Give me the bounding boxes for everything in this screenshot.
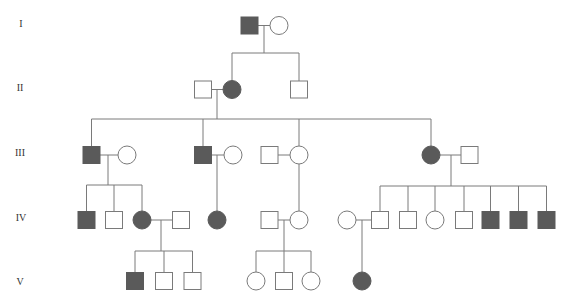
affected-female-symbol-IV-3 [133, 211, 151, 229]
affected-male-symbol-IV-15 [538, 212, 555, 229]
unaffected-female-symbol-V-6 [302, 272, 320, 290]
unaffected-male-symbol-IV-12 [456, 212, 473, 229]
unaffected-male-symbol-III-5 [261, 147, 278, 164]
unaffected-male-symbol-IV-2 [106, 212, 123, 229]
unaffected-male-symbol-IV-4 [173, 212, 190, 229]
unaffected-female-symbol-III-6 [290, 146, 308, 164]
affected-female-symbol-III-7 [422, 146, 440, 164]
unaffected-female-symbol-IV-7 [290, 211, 308, 229]
unaffected-female-symbol-I-2 [270, 17, 288, 35]
unaffected-male-symbol-IV-9 [372, 212, 389, 229]
individuals [78, 17, 555, 291]
affected-male-symbol-I-1 [241, 17, 258, 34]
generation-label: II [17, 82, 24, 93]
unaffected-male-symbol-V-3 [184, 273, 201, 290]
unaffected-female-symbol-V-4 [247, 272, 265, 290]
unaffected-female-symbol-IV-8 [338, 211, 356, 229]
affected-female-symbol-IV-5 [208, 211, 226, 229]
unaffected-male-symbol-II-3 [291, 81, 308, 98]
unaffected-female-symbol-IV-11 [426, 211, 444, 229]
unaffected-female-symbol-III-4 [224, 146, 242, 164]
pedigree-chart: IIIIIIIVV [0, 0, 570, 305]
unaffected-male-symbol-V-2 [156, 273, 173, 290]
affected-male-symbol-III-1 [83, 147, 100, 164]
generation-label: V [16, 276, 23, 287]
unaffected-male-symbol-IV-6 [261, 212, 278, 229]
pedigree-canvas [0, 0, 570, 305]
affected-female-symbol-V-7 [353, 272, 371, 290]
affected-male-symbol-IV-14 [510, 212, 527, 229]
unaffected-male-symbol-III-8 [461, 147, 478, 164]
affected-male-symbol-V-1 [127, 273, 144, 290]
affected-male-symbol-IV-1 [78, 212, 95, 229]
unaffected-male-symbol-IV-10 [400, 212, 417, 229]
generation-label: III [15, 147, 25, 158]
affected-female-symbol-II-2 [223, 81, 241, 99]
unaffected-female-symbol-III-2 [118, 146, 136, 164]
generation-label: IV [16, 212, 27, 223]
generation-label: I [19, 18, 22, 29]
unaffected-male-symbol-V-5 [276, 273, 293, 290]
affected-male-symbol-IV-13 [482, 212, 499, 229]
affected-male-symbol-III-3 [195, 147, 212, 164]
unaffected-male-symbol-II-1 [195, 81, 212, 98]
